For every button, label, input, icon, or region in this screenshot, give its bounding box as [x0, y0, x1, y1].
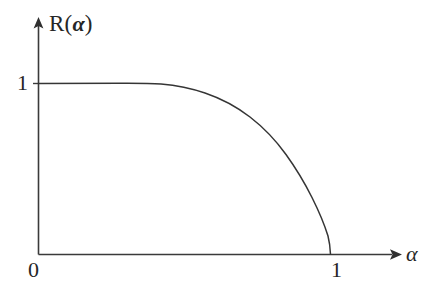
y-axis-label: R(α) [49, 12, 93, 35]
x-axis-tick-label-one: 1 [331, 259, 342, 281]
y-axis-tick-label-one: 1 [17, 72, 28, 94]
y-axis-label-alpha-glyph: α [72, 11, 84, 36]
figure-canvas: R(α) α 1 1 0 [0, 0, 436, 291]
origin-tick-label-zero: 0 [28, 259, 39, 281]
rate-function-plot [0, 0, 436, 291]
rate-function-curve [39, 83, 331, 254]
y-axis-label-r: R( [49, 11, 72, 36]
y-axis-label-paren: ) [85, 11, 93, 36]
x-axis-label: α [406, 243, 418, 265]
